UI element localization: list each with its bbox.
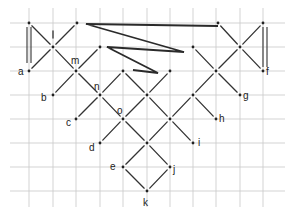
edge	[150, 170, 167, 188]
edge	[126, 74, 144, 92]
point-dot	[262, 22, 265, 25]
label-f: f	[266, 66, 269, 77]
point-labels: ambncodejkihgf	[18, 55, 269, 208]
point-dot	[122, 70, 125, 73]
point-dot	[146, 142, 149, 145]
edge	[79, 50, 97, 68]
label-m: m	[71, 55, 79, 66]
edge	[196, 50, 213, 68]
point-dot	[99, 94, 102, 97]
point-dot	[262, 70, 265, 73]
zigzag-stroke	[86, 24, 218, 73]
edge	[32, 26, 50, 44]
edge	[126, 98, 144, 116]
edge	[150, 146, 167, 164]
point-dot	[122, 166, 125, 169]
label-d: d	[89, 142, 95, 153]
edge	[221, 26, 238, 44]
label-e: e	[110, 161, 116, 172]
point-dot	[169, 70, 172, 73]
point-dot	[122, 118, 125, 121]
point-dot	[76, 22, 79, 25]
edge	[79, 98, 97, 116]
edge	[150, 98, 167, 116]
label-k: k	[143, 197, 149, 208]
edge	[126, 170, 144, 188]
edge	[243, 26, 260, 44]
edge	[32, 50, 50, 68]
label-j: j	[172, 164, 175, 175]
label-a: a	[18, 66, 24, 77]
point-dot	[75, 70, 78, 73]
point-dot	[146, 190, 149, 193]
label-c: c	[66, 117, 71, 128]
edge	[196, 98, 213, 116]
edge	[56, 26, 74, 44]
edge	[243, 50, 260, 68]
label-g: g	[243, 90, 249, 101]
edge	[219, 74, 237, 92]
point-dot	[146, 94, 149, 97]
point-dot	[75, 118, 78, 121]
grid	[10, 8, 285, 207]
point-dot	[52, 46, 55, 49]
point-dot	[215, 70, 218, 73]
label-o: o	[117, 105, 123, 116]
edge	[103, 74, 120, 92]
point-dot	[239, 46, 242, 49]
point-dot	[28, 70, 31, 73]
point-dot	[99, 46, 102, 49]
label-i: i	[198, 137, 200, 148]
edge	[103, 122, 120, 140]
point-dot	[169, 166, 172, 169]
edge	[150, 74, 167, 92]
edge	[219, 50, 237, 68]
edge	[196, 74, 213, 92]
point-dot	[217, 22, 220, 25]
point-dot	[28, 22, 31, 25]
lattice-diagram: ambncodejkihgf	[0, 0, 287, 214]
point-dot	[169, 118, 172, 121]
point-dot	[192, 142, 195, 145]
label-b: b	[41, 92, 47, 103]
edge	[150, 122, 167, 140]
point-dot	[192, 94, 195, 97]
edge	[56, 74, 73, 92]
point-dot	[99, 142, 102, 145]
point-dot	[52, 94, 55, 97]
label-n: n	[94, 81, 100, 92]
edge	[126, 146, 144, 164]
label-h: h	[219, 113, 225, 124]
edge	[126, 122, 144, 140]
edge	[173, 122, 190, 140]
edge	[173, 98, 190, 116]
point-dot	[192, 46, 195, 49]
point-dot	[215, 118, 218, 121]
point-dot	[239, 94, 242, 97]
